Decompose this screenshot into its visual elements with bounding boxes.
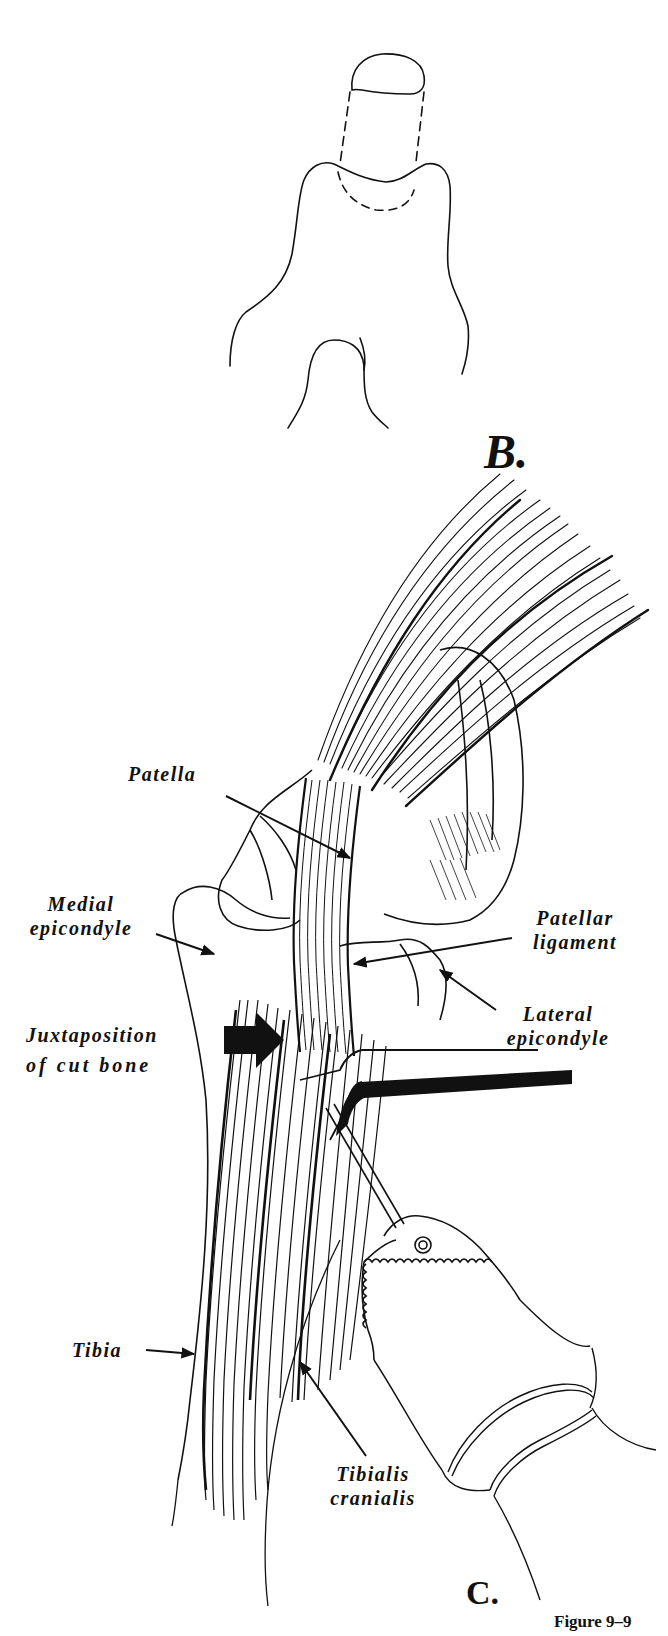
lateral-epicondyle-arrow bbox=[440, 970, 496, 1010]
label-juxtaposition-line2: of cut bone bbox=[26, 1050, 158, 1080]
surgical-instrument bbox=[300, 1050, 538, 1140]
label-tibialis-line2: cranialis bbox=[318, 1486, 428, 1510]
drill-chuck bbox=[362, 1216, 520, 1360]
medial-epicondyle-arrow bbox=[156, 934, 214, 954]
label-medial-epicondyle: Medial epicondyle bbox=[18, 892, 144, 940]
label-juxtaposition: Juxtaposition of cut bone bbox=[26, 1020, 158, 1080]
patella-arrow bbox=[226, 796, 350, 858]
label-lateral-epicondyle: Lateral epicondyle bbox=[492, 1002, 624, 1050]
label-juxtaposition-line1: Juxtaposition bbox=[26, 1020, 158, 1050]
panel-letter-c: C. bbox=[466, 1574, 499, 1612]
tibia-arrow bbox=[146, 1350, 194, 1354]
label-lateral-line2: epicondyle bbox=[492, 1026, 624, 1050]
tibialis-cranialis-arrow bbox=[300, 1362, 366, 1456]
label-medial-line2: epicondyle bbox=[18, 916, 144, 940]
figure-canvas: B. bbox=[0, 0, 668, 1636]
label-patellar-line2: ligament bbox=[520, 930, 630, 954]
panel-c-drawing bbox=[0, 0, 668, 1636]
label-medial-line1: Medial bbox=[18, 892, 144, 916]
tibialis-cranialis-fibres bbox=[205, 1000, 387, 1520]
label-lateral-line1: Lateral bbox=[492, 1002, 624, 1026]
label-patellar-line1: Patellar bbox=[520, 906, 630, 930]
figure-caption: Figure 9–9 bbox=[554, 1612, 632, 1632]
patellar-ligament-strands bbox=[300, 780, 352, 1054]
label-patella: Patella bbox=[128, 762, 196, 786]
label-patellar-ligament: Patellar ligament bbox=[520, 906, 630, 954]
quadriceps-fibres bbox=[318, 474, 640, 798]
label-tibialis-line1: Tibialis bbox=[318, 1462, 428, 1486]
label-tibia: Tibia bbox=[72, 1338, 122, 1362]
drill-body bbox=[374, 1300, 656, 1600]
label-tibialis-cranialis: Tibialis cranialis bbox=[318, 1462, 428, 1510]
